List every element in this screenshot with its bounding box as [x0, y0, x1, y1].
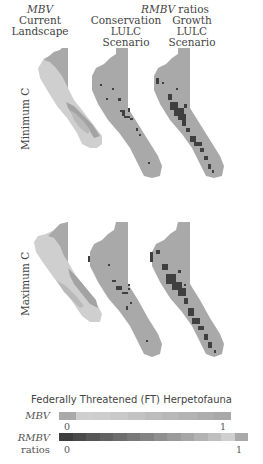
row-label-minimum-c: Minimum C: [19, 90, 31, 150]
map-rmbv-growth-min: [148, 48, 228, 178]
colorbar-swatch: [128, 412, 145, 420]
colorbar-swatch: [111, 412, 128, 420]
colorbar-swatch: [76, 412, 93, 420]
colorbar-swatch: [235, 433, 249, 441]
colorbar-swatch: [140, 433, 154, 441]
legend-rmbv-max: 1: [236, 444, 242, 455]
colorbar-swatch: [162, 412, 179, 420]
header-col1-line2: Landscape: [0, 26, 80, 37]
legend-mbv-label: MBV: [0, 410, 50, 421]
legend-mbv-max: 1: [220, 421, 226, 432]
colorbar-swatch: [179, 412, 196, 420]
colorbar-swatch: [167, 433, 181, 441]
row-label-maximum-c: Maximum C: [19, 256, 31, 316]
legend-title: Federally Threatened (FT) Herpetofauna: [0, 394, 263, 405]
header-col3-line2: LULC Scenario: [152, 26, 232, 48]
legend-rmbv-label-ratios: ratios: [0, 444, 50, 455]
colorbar-swatch: [194, 433, 208, 441]
colorbar-swatch: [197, 412, 214, 420]
colorbar-swatch: [100, 433, 114, 441]
map-rmbv-growth-max: [148, 222, 228, 357]
legend-rmbv-label: RMBV: [0, 432, 50, 443]
legend-mbv-min: 0: [64, 421, 70, 432]
colorbar-swatch: [59, 412, 76, 420]
colorbar-swatch: [221, 433, 235, 441]
legend-mbv-colorbar: [59, 412, 231, 420]
header-col1: MBV Current Landscape: [0, 4, 80, 37]
colorbar-swatch: [145, 412, 162, 420]
colorbar-swatch: [93, 412, 110, 420]
colorbar-swatch: [113, 433, 127, 441]
colorbar-swatch: [59, 433, 73, 441]
legend-rmbv-min: 0: [64, 444, 70, 455]
colorbar-swatch: [208, 433, 222, 441]
colorbar-swatch: [86, 433, 100, 441]
colorbar-swatch: [127, 433, 141, 441]
legend-rmbv-colorbar: [59, 433, 248, 441]
colorbar-swatch: [181, 433, 195, 441]
colorbar-swatch: [214, 412, 231, 420]
header-col3: Growth LULC Scenario: [152, 15, 232, 48]
colorbar-swatch: [73, 433, 87, 441]
colorbar-swatch: [154, 433, 168, 441]
